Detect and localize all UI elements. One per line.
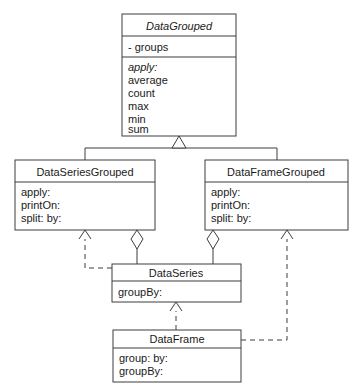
- relationship-aggregation-dataframegrouped-dataseries: [207, 230, 219, 264]
- class-operation-label: printOn:: [21, 199, 60, 211]
- class-operation-label: apply:: [211, 186, 240, 198]
- class-name-label: DataFrame: [149, 333, 204, 345]
- open-arrow-icon: [281, 230, 293, 239]
- class-operation-label: count: [128, 87, 155, 99]
- class-operation-label: split: by:: [21, 212, 61, 224]
- open-arrow-icon: [79, 230, 91, 239]
- relationship-dependency-dataframe-dataseries: [170, 302, 182, 330]
- class-attribute-label: - groups: [128, 41, 169, 53]
- generalization-line-right: [179, 143, 277, 160]
- class-operation-label: apply:: [21, 186, 50, 198]
- class-name-label: DataGrouped: [146, 20, 213, 32]
- dependency-line-right: [241, 239, 287, 340]
- class-operation-label: split: by:: [211, 212, 251, 224]
- class-box-dataseries[interactable]: DataSeries groupBy:: [112, 264, 241, 302]
- relationship-generalization-dataframegrouped: [179, 143, 277, 160]
- class-box-dataseriesgrouped[interactable]: DataSeriesGrouped apply: printOn: split:…: [15, 160, 155, 230]
- class-box-dataframegrouped[interactable]: DataFrameGrouped apply: printOn: split: …: [205, 160, 348, 230]
- hollow-diamond-icon: [207, 230, 219, 249]
- class-operation-label: group: by:: [119, 352, 168, 364]
- class-operation-label: average: [128, 74, 168, 86]
- relationship-dependency-dataframe-dataframegrouped: [241, 230, 293, 340]
- dependency-line-left: [85, 239, 112, 268]
- generalization-line-left: [85, 143, 179, 160]
- generalization-arrowhead-datagrouped: [172, 136, 186, 148]
- hollow-diamond-icon: [131, 230, 143, 249]
- class-operation-label: max: [128, 100, 149, 112]
- class-name-label: DataSeriesGrouped: [36, 166, 133, 178]
- class-operation-label: groupBy:: [118, 286, 162, 298]
- open-arrow-icon: [170, 302, 182, 311]
- class-operation-label: groupBy:: [119, 365, 163, 377]
- hollow-triangle-icon: [172, 136, 186, 148]
- relationship-generalization-dataseriesgrouped: [85, 143, 179, 160]
- class-box-datagrouped[interactable]: DataGrouped - groups apply: average coun…: [122, 14, 236, 136]
- class-operation-label: sum: [128, 123, 149, 135]
- uml-class-diagram: DataGrouped - groups apply: average coun…: [0, 0, 356, 392]
- relationship-aggregation-dataseriesgrouped-dataseries: [131, 230, 143, 264]
- class-operation-label: printOn:: [211, 199, 250, 211]
- class-box-dataframe[interactable]: DataFrame group: by: groupBy:: [113, 330, 241, 382]
- relationship-dependency-dataseries-dataseriesgrouped: [79, 230, 112, 268]
- class-operation-label: apply:: [128, 61, 157, 73]
- class-name-label: DataFrameGrouped: [227, 166, 325, 178]
- class-name-label: DataSeries: [149, 267, 204, 279]
